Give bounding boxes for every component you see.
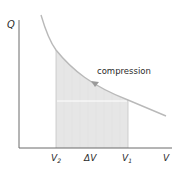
shaded-work-area bbox=[56, 50, 128, 148]
tick-delta-v: ΔV bbox=[83, 153, 97, 163]
tick-v1: V1 bbox=[122, 153, 132, 164]
y-axis-label: Q bbox=[7, 19, 15, 30]
tick-v2: V2 bbox=[51, 153, 61, 164]
diagram-canvas: Q compression V2 ΔV V1 V bbox=[0, 0, 185, 178]
x-axis-label: V bbox=[163, 153, 170, 163]
curve-label: compression bbox=[97, 66, 151, 76]
